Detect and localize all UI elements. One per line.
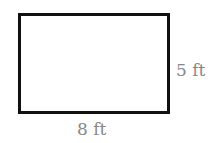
rectangle-shape [18, 13, 170, 114]
height-label: 5 ft [176, 62, 205, 79]
width-label: 8 ft [77, 121, 106, 138]
